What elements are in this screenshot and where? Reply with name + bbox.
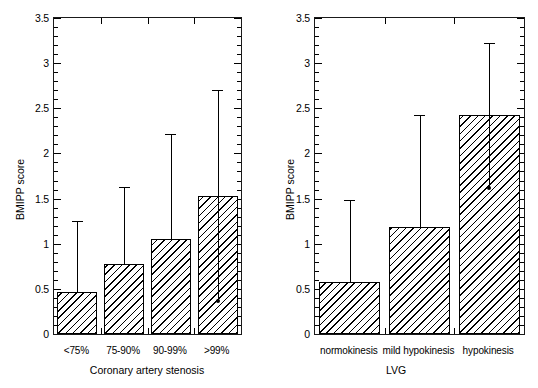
x-axis-tick-top bbox=[194, 18, 195, 24]
y-axis-minor-tick-right bbox=[237, 135, 241, 136]
y-axis-minor-tick bbox=[315, 27, 319, 28]
y-axis-minor-tick bbox=[315, 181, 319, 182]
y-axis-minor-tick-right bbox=[520, 262, 524, 263]
y-axis-tick-label: 0 bbox=[304, 328, 310, 340]
y-axis-minor-tick-right bbox=[237, 162, 241, 163]
x-axis-category-label: hypokinesis bbox=[463, 345, 514, 356]
y-axis-minor-tick bbox=[54, 208, 58, 209]
y-axis-tick-label: 1.5 bbox=[35, 193, 49, 205]
error-bar-cap-upper bbox=[212, 90, 223, 91]
y-axis-minor-tick bbox=[315, 190, 319, 191]
y-axis-title-right: BMIPP score bbox=[284, 159, 296, 220]
y-axis-minor-tick-right bbox=[520, 72, 524, 73]
y-axis-major-tick bbox=[54, 153, 61, 154]
y-axis-minor-tick-right bbox=[520, 99, 524, 100]
y-axis-tick-label: 0 bbox=[43, 328, 49, 340]
y-axis-minor-tick bbox=[54, 262, 58, 263]
y-axis-major-tick bbox=[315, 199, 322, 200]
y-axis-minor-tick-right bbox=[520, 190, 524, 191]
bar bbox=[389, 227, 450, 334]
y-axis-major-tick bbox=[54, 289, 61, 290]
bar bbox=[57, 292, 97, 334]
y-axis-minor-tick-right bbox=[520, 81, 524, 82]
y-axis-minor-tick-right bbox=[237, 54, 241, 55]
y-axis-minor-tick bbox=[315, 162, 319, 163]
y-axis-tick-label: 2 bbox=[43, 147, 49, 159]
y-axis-major-tick bbox=[315, 244, 322, 245]
y-axis-minor-tick bbox=[54, 72, 58, 73]
x-axis-title-right: LVG bbox=[386, 364, 406, 376]
y-axis-minor-tick-right bbox=[520, 298, 524, 299]
y-axis-minor-tick-right bbox=[520, 54, 524, 55]
y-axis-minor-tick-right bbox=[520, 325, 524, 326]
y-axis-minor-tick-right bbox=[520, 181, 524, 182]
y-axis-minor-tick bbox=[54, 162, 58, 163]
y-axis-tick-label: 2.5 bbox=[35, 102, 49, 114]
x-axis-tick-top bbox=[101, 18, 102, 24]
y-axis-tick-label: 3 bbox=[304, 57, 310, 69]
x-axis-category-label: <75% bbox=[64, 345, 89, 356]
y-axis-minor-tick bbox=[54, 36, 58, 37]
y-axis-tick-label: 0.5 bbox=[296, 283, 310, 295]
y-axis-minor-tick bbox=[54, 126, 58, 127]
y-axis-tick-label: 2 bbox=[304, 147, 310, 159]
y-axis-minor-tick bbox=[315, 72, 319, 73]
y-axis-major-tick-right bbox=[234, 18, 241, 19]
y-axis-minor-tick bbox=[315, 208, 319, 209]
y-axis-minor-tick-right bbox=[237, 144, 241, 145]
y-axis-tick-label: 3.5 bbox=[296, 12, 310, 24]
y-axis-minor-tick-right bbox=[237, 36, 241, 37]
x-axis-tick-bottom bbox=[148, 328, 149, 334]
plot-area-left: 00.511.522.533.5 bbox=[53, 17, 242, 335]
y-axis-minor-tick-right bbox=[520, 36, 524, 37]
y-axis-major-tick bbox=[315, 108, 322, 109]
y-axis-major-tick bbox=[54, 199, 61, 200]
error-bar bbox=[489, 43, 490, 187]
y-axis-tick-label: 1.5 bbox=[296, 193, 310, 205]
y-axis-minor-tick bbox=[54, 144, 58, 145]
error-bar-cap-upper bbox=[165, 134, 176, 135]
y-axis-minor-tick bbox=[315, 135, 319, 136]
y-axis-minor-tick-right bbox=[520, 307, 524, 308]
error-bar bbox=[350, 200, 351, 281]
y-axis-minor-tick-right bbox=[520, 117, 524, 118]
error-bar bbox=[77, 221, 78, 291]
x-axis-category-label: mild hypokinesis bbox=[383, 345, 455, 356]
y-axis-minor-tick bbox=[315, 117, 319, 118]
y-axis-major-tick-right bbox=[234, 63, 241, 64]
y-axis-minor-tick bbox=[54, 253, 58, 254]
y-axis-minor-tick bbox=[54, 99, 58, 100]
error-bar-cap-upper bbox=[484, 43, 495, 44]
y-axis-minor-tick bbox=[54, 271, 58, 272]
y-axis-minor-tick bbox=[54, 117, 58, 118]
y-axis-minor-tick bbox=[54, 45, 58, 46]
y-axis-minor-tick-right bbox=[520, 90, 524, 91]
y-axis-tick-label: 3.5 bbox=[35, 12, 49, 24]
y-axis-major-tick-right bbox=[517, 108, 524, 109]
error-bar-cap-upper bbox=[72, 221, 83, 222]
y-axis-minor-tick-right bbox=[520, 135, 524, 136]
error-bar bbox=[420, 115, 421, 228]
y-axis-minor-tick bbox=[315, 226, 319, 227]
error-bar-cap-upper bbox=[119, 187, 130, 188]
y-axis-minor-tick bbox=[315, 171, 319, 172]
y-axis-major-tick-right bbox=[517, 18, 524, 19]
y-axis-minor-tick-right bbox=[520, 171, 524, 172]
error-bar bbox=[124, 187, 125, 265]
y-axis-minor-tick bbox=[315, 271, 319, 272]
x-axis-tick-bottom bbox=[101, 328, 102, 334]
y-axis-minor-tick bbox=[54, 217, 58, 218]
y-axis-minor-tick bbox=[315, 126, 319, 127]
y-axis-minor-tick-right bbox=[237, 72, 241, 73]
x-axis-category-label: 75-90% bbox=[106, 345, 140, 356]
error-bar bbox=[171, 134, 172, 240]
y-axis-minor-tick-right bbox=[237, 117, 241, 118]
error-bar bbox=[218, 90, 219, 301]
y-axis-minor-tick-right bbox=[237, 126, 241, 127]
y-axis-tick-label: 0.5 bbox=[35, 283, 49, 295]
y-axis-minor-tick-right bbox=[520, 45, 524, 46]
y-axis-major-tick bbox=[315, 63, 322, 64]
y-axis-minor-tick-right bbox=[237, 181, 241, 182]
y-axis-major-tick bbox=[54, 244, 61, 245]
y-axis-minor-tick-right bbox=[520, 208, 524, 209]
